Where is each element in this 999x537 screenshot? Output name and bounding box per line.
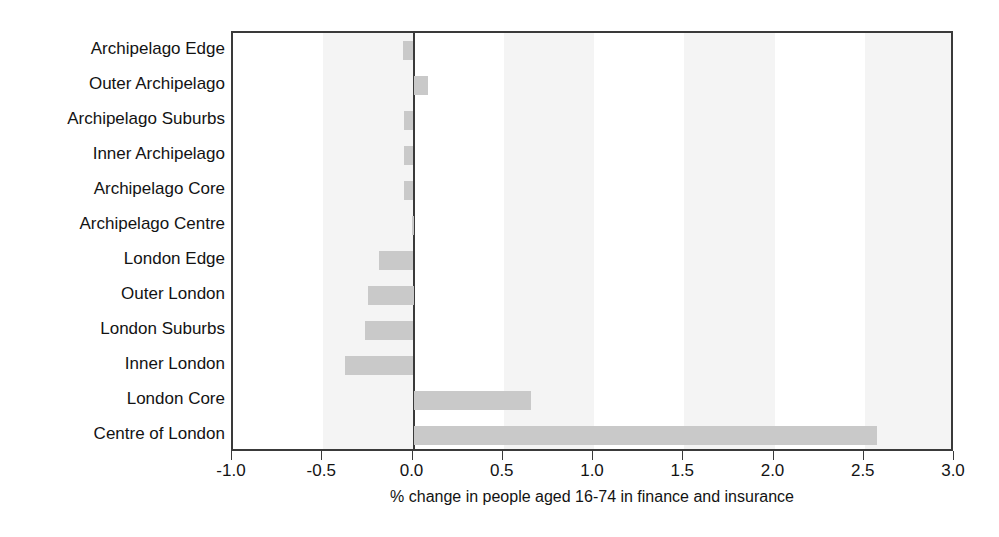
background-band bbox=[865, 33, 953, 449]
x-axis-tick-label: 3.0 bbox=[923, 462, 983, 480]
bar bbox=[365, 321, 414, 340]
background-band bbox=[323, 33, 413, 449]
plot-area bbox=[231, 31, 953, 451]
y-axis-tick-label: London Core bbox=[0, 390, 225, 407]
x-axis-tick-label: 0.0 bbox=[382, 462, 442, 480]
x-axis-tick-label: -1.0 bbox=[201, 462, 261, 480]
y-axis-tick-label: Archipelago Core bbox=[0, 180, 225, 197]
x-axis-title: % change in people aged 16-74 in finance… bbox=[231, 487, 953, 506]
bar bbox=[345, 356, 414, 375]
bar bbox=[404, 181, 413, 200]
x-axis-tick-mark bbox=[863, 451, 864, 460]
y-axis-tick-label: Outer London bbox=[0, 285, 225, 302]
x-axis-tick-label: -0.5 bbox=[291, 462, 351, 480]
y-axis-tick-label: Centre of London bbox=[0, 425, 225, 442]
x-axis-tick-mark bbox=[773, 451, 774, 460]
x-axis-tick-mark bbox=[592, 451, 593, 460]
bar bbox=[414, 426, 878, 445]
y-axis-tick-label: Outer Archipelago bbox=[0, 75, 225, 92]
y-axis-tick-label: Inner Archipelago bbox=[0, 145, 225, 162]
y-axis-tick-label: Archipelago Edge bbox=[0, 40, 225, 57]
x-axis-tick-label: 2.5 bbox=[833, 462, 893, 480]
x-axis-tick-label: 1.5 bbox=[652, 462, 712, 480]
bar bbox=[403, 41, 414, 60]
bar bbox=[404, 111, 413, 130]
y-axis-tick-label: Inner London bbox=[0, 355, 225, 372]
x-axis-tick-mark bbox=[953, 451, 954, 460]
x-axis: -1.0-0.50.00.51.01.52.02.53.0 bbox=[231, 451, 953, 491]
bar bbox=[404, 146, 413, 165]
y-axis-tick-label: London Edge bbox=[0, 250, 225, 267]
background-band bbox=[684, 33, 774, 449]
background-band bbox=[504, 33, 594, 449]
x-axis-tick-mark bbox=[682, 451, 683, 460]
x-axis-tick-mark bbox=[412, 451, 413, 460]
bar bbox=[368, 286, 413, 305]
y-axis-tick-label: London Suburbs bbox=[0, 320, 225, 337]
y-axis-tick-label: Archipelago Centre bbox=[0, 215, 225, 232]
x-axis-tick-label: 1.0 bbox=[562, 462, 622, 480]
x-axis-tick-mark bbox=[321, 451, 322, 460]
bar bbox=[414, 76, 428, 95]
x-axis-tick-mark bbox=[502, 451, 503, 460]
bar-chart: Archipelago EdgeOuter ArchipelagoArchipe… bbox=[0, 0, 999, 537]
zero-reference-line bbox=[413, 33, 415, 449]
y-axis-category-labels: Archipelago EdgeOuter ArchipelagoArchipe… bbox=[0, 31, 225, 451]
y-axis-tick-label: Archipelago Suburbs bbox=[0, 110, 225, 127]
x-axis-tick-mark bbox=[231, 451, 232, 460]
x-axis-tick-label: 0.5 bbox=[472, 462, 532, 480]
bar bbox=[414, 391, 531, 410]
bar bbox=[412, 216, 414, 235]
bar bbox=[379, 251, 413, 270]
x-axis-tick-label: 2.0 bbox=[743, 462, 803, 480]
